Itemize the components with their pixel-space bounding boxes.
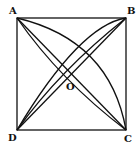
geometry-diagram: A B D C O: [0, 0, 137, 147]
label-o: O: [66, 81, 75, 92]
label-d: D: [8, 132, 17, 143]
label-b: B: [127, 5, 135, 16]
label-c: C: [124, 133, 132, 144]
label-a: A: [8, 5, 17, 16]
